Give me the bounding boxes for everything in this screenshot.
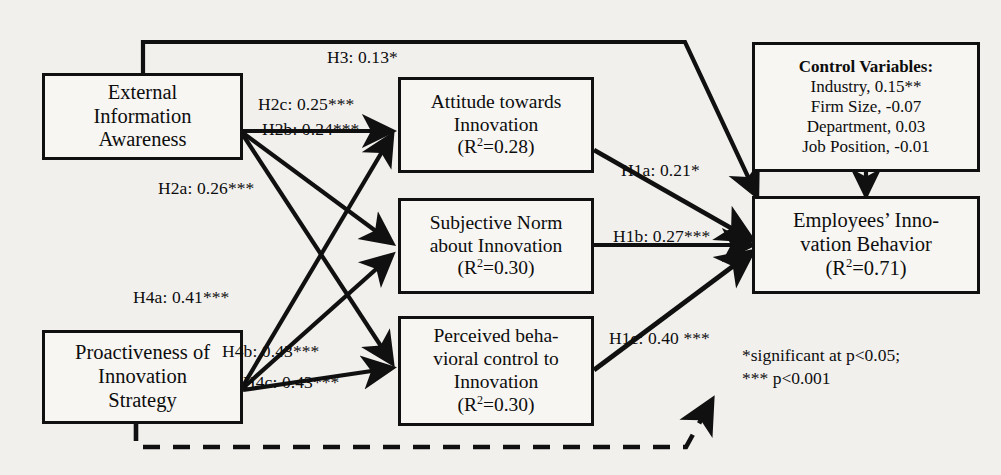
node-line: Attitude towards [431, 91, 562, 114]
node-line: External [108, 81, 177, 105]
node-line: Awareness [98, 128, 186, 152]
path-label-h2b: H2b: 0.24*** [262, 119, 359, 140]
node-control-variables[interactable]: Control Variables: Industry, 0.15** Firm… [752, 42, 980, 172]
node-perceived-behavioral-control[interactable]: Perceived beha- vioral control to Innova… [398, 316, 594, 426]
path-label-h3: H3: 0.13* [327, 47, 398, 68]
path-label-h2a: H2a: 0.26*** [158, 178, 254, 199]
path-label-h1a: H1a: 0.21* [621, 160, 700, 181]
path-line-h1c [594, 252, 752, 370]
path-line-h4b [243, 255, 392, 388]
node-employees-innovation-behavior[interactable]: Employees’ Inno- vation Behavior (R2=0.7… [752, 196, 980, 294]
path-label-h4c: H4c: 0.43*** [243, 372, 339, 393]
legend-line: *** p<0.001 [742, 367, 900, 390]
node-subjective-norm[interactable]: Subjective Norm about Innovation (R2=0.3… [398, 198, 594, 294]
control-variable-item: Firm Size, -0.07 [811, 97, 922, 117]
diagram-canvas: External Information Awareness Proactive… [0, 0, 1001, 475]
node-line: Strategy [108, 389, 176, 413]
node-line: Subjective Norm [430, 212, 563, 235]
significance-legend: *significant at p<0.05; *** p<0.001 [742, 344, 900, 390]
path-label-h1c: H1c: 0.40 *** [609, 328, 710, 349]
node-r2: (R2=0.71) [825, 257, 906, 281]
node-line: vioral control to [433, 348, 559, 371]
node-line: Innovation [98, 365, 187, 389]
node-r2: (R2=0.30) [457, 257, 534, 280]
node-line: vation Behavior [800, 233, 932, 257]
node-line: Employees’ Inno- [793, 209, 939, 233]
node-r2: (R2=0.30) [457, 394, 534, 417]
node-r2: (R2=0.28) [457, 136, 534, 159]
node-line: Innovation [454, 114, 538, 137]
node-line: about Innovation [430, 235, 563, 258]
node-external-information-awareness[interactable]: External Information Awareness [42, 73, 243, 160]
path-label-h2c: H2c: 0.25*** [258, 94, 354, 115]
node-line: Perceived beha- [433, 325, 558, 348]
control-variable-item: Job Position, -0.01 [802, 137, 930, 157]
path-label-h4b: H4b: 0.43*** [222, 341, 319, 362]
path-line-h2b [243, 133, 392, 243]
path-label-h4a: H4a: 0.41*** [133, 287, 229, 308]
node-line: Proactiveness of [75, 341, 210, 365]
control-variables-heading: Control Variables: [799, 57, 933, 77]
node-line: Innovation [454, 371, 538, 394]
control-variable-item: Industry, 0.15** [811, 77, 922, 97]
node-proactiveness-innovation-strategy[interactable]: Proactiveness of Innovation Strategy [42, 330, 243, 424]
legend-line: *significant at p<0.05; [742, 344, 900, 367]
path-label-h1b: H1b: 0.27*** [613, 226, 710, 247]
node-line: Information [94, 105, 192, 129]
node-attitude-towards-innovation[interactable]: Attitude towards Innovation (R2=0.28) [398, 77, 594, 173]
control-variable-item: Department, 0.03 [807, 117, 926, 137]
